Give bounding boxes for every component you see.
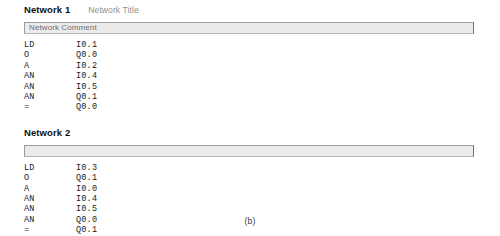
instruction-operator: A <box>24 61 76 71</box>
instruction-row[interactable]: O Q0.0 <box>24 50 476 60</box>
stl-editor-page: Network 1 Network Title Network Comment … <box>0 0 500 236</box>
network-comment-field[interactable] <box>24 145 474 157</box>
network-header: Network 2 <box>24 127 476 142</box>
instruction-operand: Q0.0 <box>76 102 97 112</box>
instruction-row[interactable]: AN I0.4 <box>24 194 476 204</box>
instruction-operator: AN <box>24 92 76 102</box>
instruction-operand: I0.5 <box>76 82 97 92</box>
instruction-row[interactable]: A I0.0 <box>24 184 476 194</box>
instruction-operator: = <box>24 102 76 112</box>
instruction-operand: I0.4 <box>76 71 97 81</box>
instruction-row[interactable]: AN Q0.1 <box>24 92 476 102</box>
instruction-row[interactable]: LD I0.1 <box>24 40 476 50</box>
instruction-operand: I0.1 <box>76 40 97 50</box>
instruction-operator: AN <box>24 71 76 81</box>
network-title: Network Title <box>88 5 138 15</box>
instruction-row[interactable]: AN I0.5 <box>24 204 476 214</box>
instruction-operator: A <box>24 184 76 194</box>
instruction-operand: Q0.1 <box>76 92 97 102</box>
instruction-operand: I0.0 <box>76 184 97 194</box>
instruction-operand: Q0.0 <box>76 50 97 60</box>
instruction-operator: AN <box>24 82 76 92</box>
network-label: Network 1 <box>24 4 70 15</box>
instruction-row[interactable]: AN I0.4 <box>24 71 476 81</box>
instruction-row[interactable]: A I0.2 <box>24 61 476 71</box>
network-comment-field[interactable]: Network Comment <box>24 22 474 34</box>
instruction-operator: LD <box>24 163 76 173</box>
instruction-operand: I0.3 <box>76 163 97 173</box>
instruction-list: LD I0.1 O Q0.0 A I0.2 AN I0.4 AN I0.5 <box>24 40 476 113</box>
instruction-operator: AN <box>24 194 76 204</box>
instruction-row[interactable]: O Q0.1 <box>24 173 476 183</box>
instruction-operator: LD <box>24 40 76 50</box>
instruction-row[interactable]: AN I0.5 <box>24 82 476 92</box>
instruction-row[interactable]: = Q0.0 <box>24 102 476 112</box>
instruction-operator: AN <box>24 204 76 214</box>
instruction-operator: O <box>24 173 76 183</box>
instruction-operand: I0.5 <box>76 204 97 214</box>
instruction-operand: Q0.1 <box>76 225 97 235</box>
network-label: Network 2 <box>24 127 70 138</box>
instruction-row[interactable]: = Q0.1 <box>24 225 476 235</box>
instruction-row[interactable]: LD I0.3 <box>24 163 476 173</box>
instruction-operator: = <box>24 225 76 235</box>
instruction-operand: I0.2 <box>76 61 97 71</box>
network-block: Network 1 Network Title Network Comment … <box>24 4 476 113</box>
instruction-operator: O <box>24 50 76 60</box>
figure-caption: (b) <box>0 216 500 226</box>
stl-program-editor: Network 1 Network Title Network Comment … <box>24 4 476 235</box>
network-header: Network 1 Network Title <box>24 4 476 19</box>
instruction-operand: I0.4 <box>76 194 97 204</box>
instruction-operand: Q0.1 <box>76 173 97 183</box>
network-comment-text: Network Comment <box>29 23 97 33</box>
